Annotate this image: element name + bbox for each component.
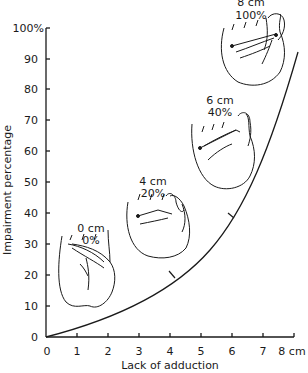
y-tick-labels: 100% 90 80 70 60 50 40 30 20 10 0: [13, 22, 44, 344]
y-tick-100: 100%: [13, 22, 44, 35]
y-tick-20: 20: [24, 269, 38, 282]
curve-mark-40: [228, 213, 234, 218]
hand-illustration-6cm: [192, 113, 255, 189]
x-tick-1: 1: [74, 345, 81, 358]
hand-illustration-8cm: [221, 14, 284, 85]
y-tick-30: 30: [24, 238, 38, 251]
x-tick-3: 3: [136, 345, 143, 358]
x-tick-8: 8 cm: [278, 345, 305, 358]
x-tick-6: 6: [229, 345, 236, 358]
y-tick-50: 50: [24, 176, 38, 189]
x-tick-4: 4: [167, 345, 174, 358]
y-tick-0: 0: [31, 331, 38, 344]
y-tick-80: 80: [24, 83, 38, 96]
hand-4-percent: 20%: [141, 187, 165, 200]
y-tick-10: 10: [24, 300, 38, 313]
curve-mark-20: [169, 271, 175, 278]
hand-6-percent: 40%: [208, 106, 232, 119]
y-tick-60: 60: [24, 145, 38, 158]
x-axis-title: Lack of adduction: [121, 359, 219, 372]
y-tick-40: 40: [24, 207, 38, 220]
curve-marks: [169, 213, 234, 278]
x-tick-2: 2: [105, 345, 112, 358]
hand-0-percent: 0%: [82, 234, 99, 247]
x-axis: [46, 333, 294, 337]
x-tick-7: 7: [260, 345, 267, 358]
y-tick-90: 90: [24, 53, 38, 66]
impairment-chart: 100% 90 80 70 60 50 40 30 20 10 0 0 1 2 …: [0, 0, 308, 373]
hand-8-distance: 8 cm: [237, 0, 264, 9]
y-axis: [46, 28, 50, 337]
x-tick-5: 5: [198, 345, 205, 358]
y-tick-70: 70: [24, 114, 38, 127]
y-axis-title: Impairment percentage: [1, 125, 14, 255]
x-tick-0: 0: [44, 345, 51, 358]
hand-8-percent: 100%: [235, 9, 266, 22]
hand-illustration-4cm: [127, 194, 190, 258]
x-tick-labels: 0 1 2 3 4 5 6 7 8 cm: [44, 345, 306, 358]
